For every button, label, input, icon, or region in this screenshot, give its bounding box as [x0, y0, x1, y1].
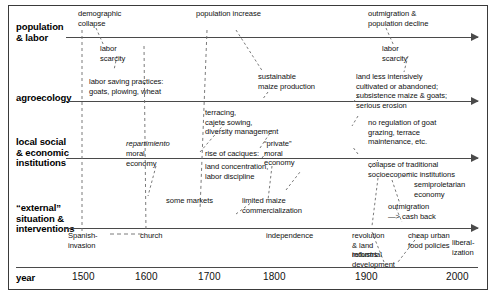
annotation-serious-erosion: serious erosion — [356, 101, 407, 111]
annotation-no-regulation-goat-grazing: no regulation of goat grazing, terrace m… — [368, 118, 436, 147]
annotation-limited-maize-commercialization: limited maize commercialization — [242, 196, 302, 215]
annotation-collapse-traditional-institutions: collapse of traditional socioeconomic in… — [368, 160, 455, 179]
annotation-liberalization: liberal- ization — [452, 238, 474, 257]
year-tick-1600: 1600 — [135, 271, 158, 282]
annotation-spanish-invasion: Spanish- invasion — [68, 231, 98, 250]
axis-population-labor — [66, 37, 478, 38]
annotation-population-increase: population increase — [196, 9, 261, 19]
arrowhead-icon — [471, 224, 479, 232]
arrowhead-icon — [471, 154, 479, 162]
annotation-labor-saving-practices: labor saving practices: goats, plowing, … — [89, 77, 163, 96]
annotation-some-markets: some markets — [166, 196, 213, 206]
row-label-agroecology: agroecology — [16, 93, 71, 104]
annotation-outmigration-cash-back: outmigration —> cash back — [388, 202, 436, 221]
year-tick-2000: 2000 — [446, 271, 469, 282]
arrowhead-icon — [471, 33, 479, 41]
annotation-repartimiento: repartimiento — [126, 139, 170, 149]
year-tick-1800: 1800 — [263, 271, 286, 282]
axis-year — [16, 267, 478, 268]
annotation-semiproletarian-economy: semiproletarian economy — [414, 180, 465, 199]
annotation-rise-of-caciques: rise of caciques: — [205, 149, 259, 159]
row-label-external: “external” situation & interventions — [16, 203, 74, 235]
year-tick-1700: 1700 — [198, 271, 221, 282]
annotation-private-moral-economy: “private” moral economy — [264, 139, 294, 168]
row-label-population-labor: population & labor — [16, 22, 64, 43]
annotation-terracing-cajete-sowing: terracing, cajete sowing, diversity mana… — [205, 108, 278, 137]
annotation-industrial-development: industrial development — [352, 250, 395, 269]
annotation-labor-scarcity-early: labor scarcity — [100, 44, 125, 63]
annotation-sustainable-maize-production: sustainable maize production — [258, 72, 315, 91]
annotation-outmigration-population-decline: outmigration & population decline — [368, 9, 428, 28]
year-tick-1500: 1500 — [72, 271, 95, 282]
arrowhead-icon — [471, 97, 479, 105]
row-label-year: year — [16, 273, 35, 284]
annotation-land-concentration-labor-discipline: land concentration, labor discipline — [205, 162, 268, 181]
year-tick-1900: 1900 — [355, 271, 378, 282]
annotation-independence: independence — [266, 231, 313, 241]
axis-external — [66, 228, 478, 229]
timeline-diagram: population & labor agroecology local soc… — [0, 0, 496, 296]
annotation-land-less-intensively-cultivated: land less intensively cultivated or aban… — [356, 72, 447, 101]
annotation-cheap-urban-food-policies: cheap urban food policies — [408, 231, 450, 250]
annotation-moral-economy-early: moral economy — [126, 149, 156, 168]
row-label-local-institutions: local social & economic institutions — [16, 137, 69, 169]
annotation-church: church — [140, 231, 163, 241]
annotation-labor-scarcity-late: labor scarcity — [382, 44, 407, 63]
axis-agroecology — [66, 101, 478, 102]
annotation-demographic-collapse: demographic collapse — [78, 9, 121, 28]
